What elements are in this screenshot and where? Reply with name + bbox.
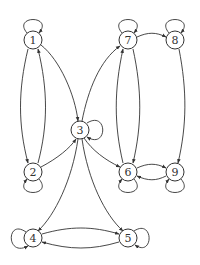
graph-canvas: 1 2 3 4 5 6 7 8 9 (0, 0, 200, 265)
node-label: 2 (30, 166, 37, 179)
node-label: 4 (30, 232, 37, 245)
edge-3-5 (82, 139, 123, 231)
edge-3-4 (38, 139, 78, 231)
edge-4-5 (42, 228, 119, 234)
node-9: 9 (166, 163, 184, 181)
edge-7-6 (133, 49, 140, 163)
edge-1-3 (41, 45, 78, 121)
edge-2-1 (38, 49, 46, 163)
edge-2-3 (41, 139, 76, 167)
node-3: 3 (71, 121, 89, 139)
node-6: 6 (119, 163, 137, 181)
node-8: 8 (166, 31, 184, 49)
edge-1-2 (21, 49, 29, 163)
node-7: 7 (119, 31, 137, 49)
edge-7-8 (137, 33, 166, 37)
edge-9-6 (137, 176, 166, 180)
edge-6-9 (137, 164, 166, 168)
edge-5-4 (42, 242, 119, 248)
node-2: 2 (24, 163, 42, 181)
edge-6-7 (116, 49, 123, 163)
node-label: 3 (77, 124, 84, 137)
node-label: 1 (30, 34, 37, 47)
node-5: 5 (119, 229, 137, 247)
edge-3-7 (82, 46, 120, 121)
node-label: 6 (125, 166, 132, 179)
node-label: 8 (172, 34, 179, 47)
node-label: 9 (172, 166, 179, 179)
node-1: 1 (24, 31, 42, 49)
edge-3-6 (84, 138, 120, 167)
node-4: 4 (24, 229, 42, 247)
edge-8-9 (178, 49, 185, 163)
node-label: 5 (125, 232, 132, 245)
node-label: 7 (125, 34, 132, 47)
